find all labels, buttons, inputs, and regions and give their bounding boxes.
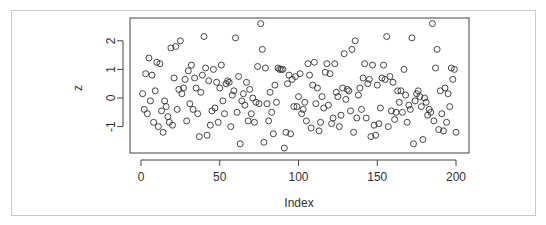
data-point bbox=[307, 72, 313, 78]
data-point bbox=[195, 111, 201, 117]
data-point bbox=[385, 124, 391, 130]
data-point bbox=[266, 118, 272, 124]
data-point bbox=[444, 119, 450, 125]
data-point bbox=[206, 78, 212, 84]
data-point bbox=[177, 38, 183, 44]
data-point bbox=[316, 128, 322, 134]
data-point bbox=[187, 101, 193, 107]
data-point bbox=[242, 102, 248, 108]
data-point bbox=[244, 79, 250, 85]
data-point bbox=[411, 141, 417, 147]
data-point bbox=[217, 85, 223, 91]
data-point bbox=[308, 125, 314, 131]
data-point bbox=[146, 55, 152, 61]
data-point bbox=[370, 62, 376, 68]
data-point bbox=[359, 106, 365, 112]
data-point bbox=[196, 134, 202, 140]
data-point bbox=[210, 66, 216, 72]
data-point bbox=[261, 139, 267, 145]
data-point bbox=[267, 89, 273, 95]
x-tick-label: 200 bbox=[446, 170, 466, 184]
data-point bbox=[355, 92, 361, 98]
data-point bbox=[352, 38, 358, 44]
data-point bbox=[374, 82, 380, 88]
data-point bbox=[204, 132, 210, 138]
data-point bbox=[239, 98, 245, 104]
data-point bbox=[349, 46, 355, 52]
data-point bbox=[222, 111, 228, 117]
data-point bbox=[165, 114, 171, 120]
data-point bbox=[214, 79, 220, 85]
data-point bbox=[264, 101, 270, 107]
data-point bbox=[403, 92, 409, 98]
data-point bbox=[450, 76, 456, 82]
data-point bbox=[174, 106, 180, 112]
data-point bbox=[251, 119, 257, 125]
data-point bbox=[258, 21, 264, 27]
data-point bbox=[330, 115, 336, 121]
data-point bbox=[203, 65, 209, 71]
y-tick-label: 2 bbox=[104, 37, 118, 44]
data-point bbox=[387, 74, 393, 80]
data-point bbox=[207, 122, 213, 128]
data-point bbox=[341, 51, 347, 57]
data-point bbox=[273, 99, 279, 105]
data-point bbox=[233, 35, 239, 41]
data-points bbox=[140, 21, 459, 152]
data-point bbox=[447, 104, 453, 110]
data-point bbox=[248, 111, 254, 117]
data-point bbox=[163, 104, 169, 110]
data-point bbox=[143, 71, 149, 77]
data-point bbox=[314, 85, 320, 91]
data-point bbox=[439, 111, 445, 117]
data-point bbox=[433, 65, 439, 71]
data-point bbox=[270, 131, 276, 137]
data-point bbox=[272, 82, 278, 88]
data-point bbox=[198, 89, 204, 95]
data-point bbox=[384, 34, 390, 40]
data-point bbox=[318, 119, 324, 125]
data-point bbox=[179, 91, 185, 97]
data-point bbox=[228, 124, 234, 130]
data-point bbox=[185, 68, 191, 74]
data-point bbox=[250, 95, 256, 101]
y-tick-label: 1 bbox=[104, 66, 118, 73]
x-tick-label: 50 bbox=[213, 170, 227, 184]
data-point bbox=[281, 145, 287, 151]
data-point bbox=[162, 98, 168, 104]
data-point bbox=[319, 94, 325, 100]
data-point bbox=[360, 75, 366, 81]
data-point bbox=[354, 115, 360, 121]
x-axis-title: Index bbox=[284, 196, 313, 210]
data-point bbox=[346, 88, 352, 94]
data-point bbox=[431, 118, 437, 124]
data-point bbox=[269, 109, 275, 115]
data-point bbox=[362, 61, 368, 67]
data-point bbox=[324, 61, 330, 67]
data-point bbox=[147, 98, 153, 104]
data-point bbox=[392, 117, 398, 123]
data-point bbox=[453, 129, 459, 135]
data-point bbox=[404, 119, 410, 125]
data-point bbox=[329, 121, 335, 127]
data-point bbox=[336, 124, 342, 130]
data-point bbox=[215, 119, 221, 125]
data-point bbox=[199, 72, 205, 78]
data-point bbox=[182, 76, 188, 82]
data-point bbox=[399, 109, 405, 115]
data-point bbox=[160, 129, 166, 135]
x-tick-label: 100 bbox=[288, 170, 308, 184]
data-point bbox=[338, 112, 344, 118]
data-point bbox=[429, 21, 435, 27]
data-point bbox=[332, 61, 338, 67]
data-point bbox=[247, 86, 253, 92]
data-point bbox=[348, 108, 354, 114]
scatter-chart: 050100150200 -1012 Index z bbox=[0, 0, 546, 225]
data-point bbox=[434, 46, 440, 52]
data-point bbox=[363, 115, 369, 121]
data-point bbox=[149, 72, 155, 78]
data-point bbox=[305, 61, 311, 67]
y-tick-label: -1 bbox=[104, 121, 118, 132]
data-point bbox=[144, 111, 150, 117]
data-point bbox=[188, 62, 194, 68]
